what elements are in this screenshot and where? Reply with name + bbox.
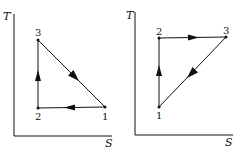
left-arrow-2-3-icon — [35, 70, 41, 81]
right-point-1-label: 1 — [156, 111, 162, 121]
left-point-1-label: 1 — [102, 112, 108, 122]
left-arrow-1-2-icon — [64, 105, 75, 111]
right-point-3-label: 3 — [223, 26, 229, 36]
left-y-axis-label: T — [3, 11, 10, 22]
left-point-3 — [37, 39, 40, 42]
right-arrow-2-3-icon — [188, 35, 199, 41]
right-arrow-1-2-icon — [156, 65, 162, 76]
left-point-2 — [37, 107, 40, 110]
right-x-axis-label: S — [225, 137, 233, 148]
left-x-axis-label: S — [105, 138, 113, 149]
right-point-2-label: 2 — [156, 27, 162, 37]
right-y-axis-label: T — [126, 10, 133, 21]
ts-diagram-left — [14, 14, 112, 136]
right-point-1 — [158, 106, 161, 109]
left-point-1 — [104, 106, 107, 109]
diagram-canvas — [0, 0, 242, 153]
left-point-3-label: 3 — [35, 28, 41, 38]
ts-diagram-right — [135, 12, 233, 135]
left-point-2-label: 2 — [35, 112, 41, 122]
